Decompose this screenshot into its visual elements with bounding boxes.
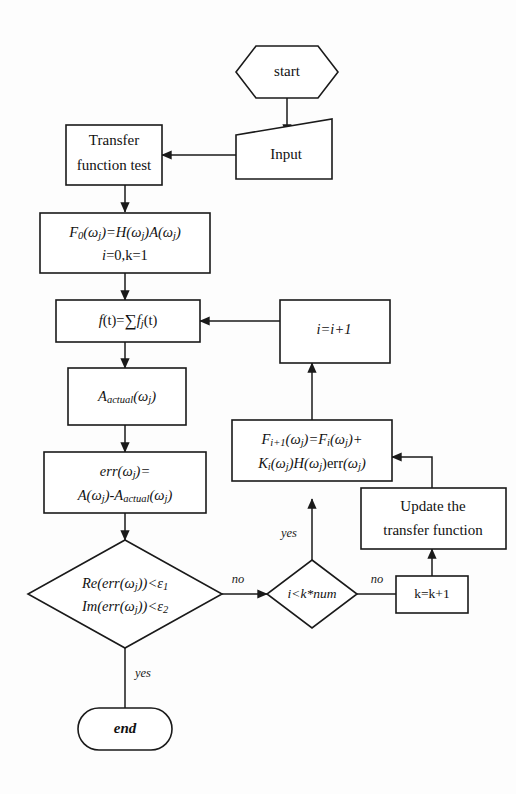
- node-update-tf-line2: transfer function: [383, 522, 483, 538]
- node-end-label: end: [114, 720, 137, 736]
- node-update-tf-line1: Update the: [400, 498, 466, 514]
- node-i-incr-label: i=i+1: [317, 321, 352, 337]
- node-check-err-line1: Re(err(ωj))<ε1: [81, 575, 168, 592]
- node-init-line1: F0(ωj)=H(ωj)A(ωj): [68, 224, 181, 241]
- node-init[interactable]: [40, 213, 210, 273]
- node-f-update-line2: Ki(ωj)H(ωj)err(ωj): [257, 455, 366, 472]
- node-init-line2: i=0,k=1: [102, 247, 148, 263]
- node-check-err[interactable]: [28, 540, 222, 648]
- flowchart-svg: start Input Transfer function test F0(ωj…: [0, 0, 516, 794]
- node-input-label: Input: [270, 146, 302, 162]
- edge-label-err-yes: yes: [133, 666, 151, 680]
- node-err-line1: err(ωj)=: [100, 463, 150, 480]
- node-update-tf[interactable]: [361, 488, 506, 549]
- node-start-label: start: [274, 63, 301, 79]
- node-k-incr-label: k=k+1: [414, 586, 449, 601]
- node-check-iter-label: i<k*num: [288, 586, 337, 601]
- node-transfer-test-line1: Transfer: [89, 132, 139, 148]
- node-check-err-line2: Im(err(ωj))<ε2: [81, 598, 169, 615]
- edge-label-err-no: no: [232, 572, 245, 586]
- node-transfer-test-line2: function test: [77, 157, 152, 173]
- node-sum-label: f(t)=∑fj(t): [99, 311, 158, 330]
- node-f-update[interactable]: [232, 420, 392, 481]
- flowchart-canvas: start Input Transfer function test F0(ωj…: [0, 0, 516, 794]
- edge-update-tf-to-f-update: [392, 457, 432, 488]
- edge-label-iter-yes: yes: [279, 526, 297, 540]
- edge-label-iter-no: no: [371, 572, 384, 586]
